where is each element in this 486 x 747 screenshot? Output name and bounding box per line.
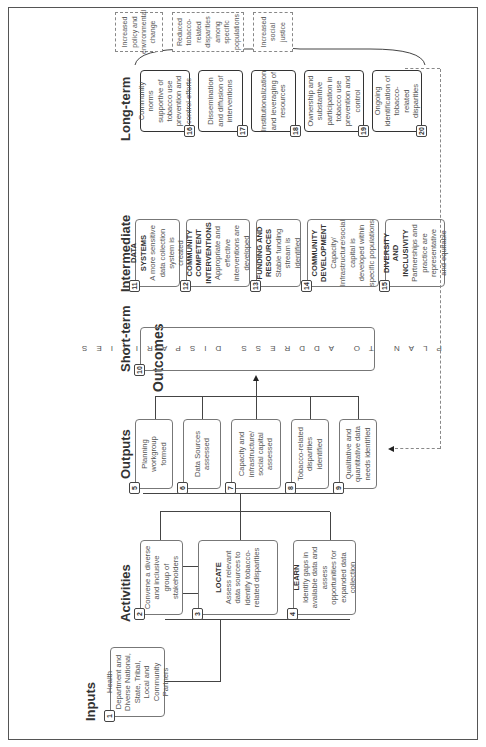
connector-line [330,512,331,540]
output-text: Planning workgroup formed [140,424,168,484]
long-term-box-19: Ownership and substantive participation … [304,70,364,132]
long-term-text: Community norms supportive of tobacco us… [137,75,193,127]
connector-line [165,681,220,682]
activity-title: LOCATE [214,562,223,593]
intermediate-text: Capacity/ Infrastructure/social capital … [329,220,376,286]
long-term-text: Institutionalization and leveraging of r… [259,71,287,131]
connector-line [160,512,161,540]
activity-box-2: Convene a diverse and inclusive group of… [140,540,183,615]
output-text: Tobacco-related disparities identified [296,424,324,484]
step-number-17: 17 [237,125,248,137]
step-number-7: 7 [225,482,236,494]
step-number-14: 14 [301,280,312,292]
output-box-5: Planning workgroup formed [135,419,173,489]
arrow-right-icon [253,375,259,381]
short-term-box-10: PLAN TO ADDRESS DISPARITIES [140,327,375,371]
step-number-3: 3 [192,608,203,620]
connector-line [220,620,221,682]
intermediate-text: Appropriate and effective interventions … [213,224,251,282]
long-term-text: Ownership and substantive participation … [306,75,362,127]
arrow-up-icon [388,446,394,452]
impact-box-social-justice: Increased social justice [253,12,293,52]
activities-heading: Activities [118,564,133,622]
connector-line [358,397,359,419]
connector-line [240,494,241,512]
connector-line [183,593,198,594]
connector-line [310,397,311,419]
long-term-box-17: Dissemination and diffusion of intervent… [198,70,243,132]
connector-line [240,512,241,540]
step-number-16: 16 [184,125,195,137]
feedback-dashed-line [395,448,440,449]
impact-text: Increased policy and environmental chang… [120,10,158,54]
step-number-20: 20 [416,125,427,137]
feedback-dashed-line [405,68,440,69]
intermediate-title: COMMUNITY COMPETENT INTERVENTIONS [185,222,213,283]
logic-model-diagram: Outcomes Inputs Activities Outputs Short… [0,0,486,747]
intermediate-text: A more sensitive data collection system … [148,224,186,282]
connector-line [155,397,156,419]
impact-box-disparities: Reduced tobacco-related disparities amon… [172,12,244,52]
long-term-box-16: Community norms supportive of tobacco us… [140,70,190,132]
step-number-11: 11 [129,280,140,292]
inputs-heading: Inputs [83,682,98,721]
activity-title: LEARN [292,564,301,590]
output-text: Qualitative and quantitative data needs … [344,424,372,484]
intermediate-text: Partnerships and practice are representa… [410,224,448,282]
output-text: Data Sources assessed [193,424,212,484]
activity-box-4: LEARN Identify gaps in available data an… [293,540,356,615]
connector-line [256,381,257,397]
impact-box-policy: Increased policy and environmental chang… [115,12,163,52]
impact-text: Increased social justice [259,17,287,48]
long-term-text: Ongoing identification of tobacco-relate… [373,75,420,127]
output-box-6: Data Sources assessed [183,419,221,489]
input-box-1: Health Department and Diverse National, … [110,647,165,717]
long-term-text: Dissemination and diffusion of intervent… [206,75,234,127]
connector-line [183,566,198,567]
activity-text: Assess relevant data sources to identify… [224,545,262,610]
step-number-1: 1 [104,710,115,722]
intermediate-text: Stable funding stream is identified [274,224,302,282]
step-number-8: 8 [285,482,296,494]
intermediate-title: DATA SYSTEMS [129,224,148,282]
intermediate-title: DIVERSITY AND INCLUSIVITY [382,224,410,282]
intermediate-title: FUNDING AND RESOURCES [255,224,274,282]
output-box-9: Qualitative and quantitative data needs … [339,419,377,489]
intermediate-box-15: DIVERSITY AND INCLUSIVITYPartnerships an… [385,219,445,287]
step-number-19: 19 [358,125,369,137]
activity-text: Convene a diverse and inclusive group of… [143,545,181,610]
connector-line [143,493,338,494]
step-number-10: 10 [134,364,145,376]
step-number-9: 9 [333,482,344,494]
step-number-15: 15 [379,280,390,292]
activity-text: Identify gaps in available data and asse… [301,545,357,610]
input-text: Health Department and Diverse National, … [105,652,171,712]
step-number-2: 2 [134,608,145,620]
connector-line [160,511,330,512]
step-number-4: 4 [287,608,298,620]
connector-line [256,397,257,419]
long-term-heading: Long-term [118,77,133,141]
intermediate-box-13: FUNDING AND RESOURCESStable funding stre… [256,219,301,287]
feedback-dashed-line [440,69,441,449]
connector-line [155,396,359,397]
intermediate-title: COMMUNITY DEVELOPMENT [310,224,329,282]
step-number-18: 18 [290,125,301,137]
step-number-12: 12 [180,280,191,292]
activity-box-3: LOCATE Assess relevant data sources to i… [198,540,278,615]
output-text: Capacity and infrastructure/ social capi… [237,424,275,484]
short-term-heading: Short-term [118,306,133,372]
outputs-heading: Outputs [118,429,133,479]
intermediate-box-11: DATA SYSTEMSA more sensitive data collec… [135,219,180,287]
step-number-13: 13 [250,280,261,292]
intermediate-box-12: COMMUNITY COMPETENT INTERVENTIONSAppropr… [186,219,250,287]
intermediate-box-14: COMMUNITY DEVELOPMENTCapacity/ Infrastru… [307,219,379,287]
step-number-5: 5 [129,482,140,494]
output-box-7: Capacity and infrastructure/ social capi… [231,419,281,489]
long-term-box-18: Institutionalization and leveraging of r… [251,70,296,132]
output-box-8: Tobacco-related disparities identified [291,419,329,489]
step-number-6: 6 [177,482,188,494]
long-term-box-20: Ongoing identification of tobacco-relate… [372,70,422,132]
connector-line [202,397,203,419]
plan-text: PLAN TO ADDRESS DISPARITIES [73,345,442,354]
